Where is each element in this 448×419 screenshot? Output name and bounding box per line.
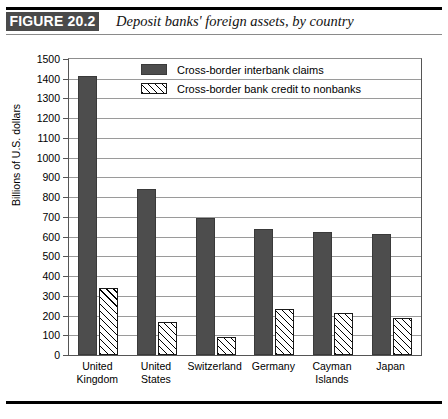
legend-item-nonbank-credit: Cross-border bank credit to nonbanks (141, 81, 384, 97)
bar-nonbank-credit (217, 337, 236, 355)
bar-interbank-claims (313, 232, 332, 355)
chart-legend: Cross-border interbank claims Cross-bord… (141, 62, 384, 100)
y-axis-tick-label: 500 (42, 250, 60, 262)
legend-item-interbank-claims: Cross-border interbank claims (141, 62, 384, 78)
y-axis-tick-label: 400 (42, 270, 60, 282)
y-axis-tick-label: 300 (42, 290, 60, 302)
figure-title: Deposit banks' foreign assets, by countr… (116, 12, 354, 31)
y-axis-title: Billions of U.S. dollars (10, 104, 22, 206)
plot-area: 0100200300400500600700800900100011001200… (68, 58, 422, 356)
y-axis-tick-label: 1400 (37, 73, 60, 85)
y-axis-tick (63, 355, 69, 356)
figure-number-badge: FIGURE 20.2 (6, 12, 99, 31)
bar-nonbank-credit (393, 318, 412, 355)
bar-chart: Billions of U.S. dollars 010020030040050… (6, 36, 442, 388)
bar-nonbank-credit (275, 309, 294, 355)
y-axis-tick-label: 0 (54, 349, 60, 361)
bar-interbank-claims (196, 218, 215, 355)
legend-label-nonbank-credit: Cross-border bank credit to nonbanks (177, 81, 361, 97)
bar-interbank-claims (372, 234, 391, 355)
bar-interbank-claims (137, 189, 156, 355)
bar-nonbank-credit (99, 288, 118, 355)
y-axis-tick-label: 1200 (37, 112, 60, 124)
bar-interbank-claims (78, 76, 97, 355)
y-axis-tick-label: 1300 (37, 92, 60, 104)
y-axis-tick-label: 1000 (37, 152, 60, 164)
legend-swatch-hatch (141, 83, 167, 94)
header-divider (6, 34, 442, 35)
y-axis-tick-label: 900 (42, 171, 60, 183)
figure-header: FIGURE 20.2 Deposit banks' foreign asset… (6, 12, 442, 33)
legend-swatch-solid (141, 64, 167, 75)
y-axis-tick-label: 700 (42, 211, 60, 223)
top-rule (6, 7, 442, 10)
figure-container: FIGURE 20.2 Deposit banks' foreign asset… (0, 0, 448, 419)
bar-nonbank-credit (158, 322, 177, 355)
bar-nonbank-credit (334, 313, 353, 355)
y-axis-tick-label: 1100 (37, 132, 60, 144)
bar-series-layer (69, 59, 421, 355)
y-axis-tick-label: 1500 (37, 53, 60, 65)
y-axis-tick-label: 100 (42, 329, 60, 341)
y-axis-tick-label: 800 (42, 191, 60, 203)
y-axis-tick-label: 200 (42, 310, 60, 322)
x-axis-label: Japan (357, 360, 425, 373)
y-axis-tick-label: 600 (42, 231, 60, 243)
bottom-rule (6, 401, 442, 404)
bar-interbank-claims (254, 229, 273, 355)
legend-label-interbank-claims: Cross-border interbank claims (177, 62, 324, 78)
